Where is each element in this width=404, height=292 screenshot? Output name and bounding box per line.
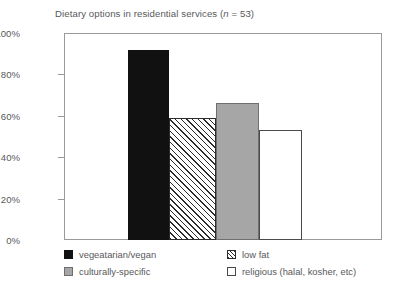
chart-title: Dietary options in residential services … — [55, 8, 254, 19]
y-tick-label: 0% — [6, 235, 20, 246]
bar-white — [259, 130, 302, 240]
legend-label: vegeatarian/vegan — [79, 249, 156, 260]
y-axis: 100%80%60%40%20%0% — [0, 0, 64, 292]
legend-item: low fat — [227, 249, 269, 260]
legend-label: religious (halal, kosher, etc) — [242, 266, 356, 277]
chart-title-suffix: = 53) — [229, 8, 254, 19]
bar-hatched — [169, 118, 216, 240]
legend-swatch-white — [227, 267, 236, 276]
bar-solid-black — [128, 50, 169, 240]
y-tick-label: 60% — [1, 110, 20, 121]
bars-layer — [64, 33, 382, 240]
legend-swatch-solid-black — [64, 250, 73, 259]
chart-title-prefix: Dietary options in residential services … — [55, 8, 223, 19]
y-tick-label: 20% — [1, 193, 20, 204]
legend-item: vegeatarian/vegan — [64, 249, 156, 260]
bar-gray — [216, 103, 259, 240]
legend-swatch-gray — [64, 267, 73, 276]
legend-swatch-hatched — [227, 250, 236, 259]
legend-label: culturally-specific — [79, 266, 150, 277]
legend-label: low fat — [242, 249, 269, 260]
legend-item: culturally-specific — [64, 266, 150, 277]
y-tick-label: 40% — [1, 152, 20, 163]
legend-item: religious (halal, kosher, etc) — [227, 266, 356, 277]
y-tick-label: 100% — [0, 28, 20, 39]
chart-legend: vegeatarian/veganlow fatculturally-speci… — [64, 249, 394, 289]
y-tick-label: 80% — [1, 69, 20, 80]
bar-chart: Dietary options in residential services … — [0, 0, 404, 292]
